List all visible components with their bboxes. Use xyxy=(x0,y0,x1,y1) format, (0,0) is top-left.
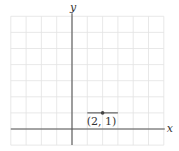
x-axis-label: x xyxy=(167,122,174,135)
point-label: (2, 1) xyxy=(87,115,117,128)
y-axis-label: y xyxy=(69,1,77,14)
coordinate-plane: x y (2, 1) xyxy=(0,0,179,151)
